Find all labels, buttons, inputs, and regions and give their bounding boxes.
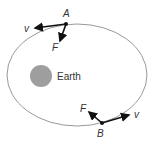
earth-icon	[30, 65, 52, 87]
point-a-dot	[64, 22, 68, 26]
force-label-a: F	[52, 42, 59, 53]
velocity-label-b: v	[134, 109, 140, 120]
earth-label: Earth	[57, 71, 81, 82]
point-b-dot	[100, 121, 104, 125]
point-b-label: B	[97, 128, 104, 139]
point-b: B v F	[80, 103, 140, 139]
force-arrow-a	[60, 24, 66, 41]
force-label-b: F	[80, 103, 87, 114]
velocity-arrow-b	[102, 115, 129, 123]
orbit-diagram: Earth A v F B v F	[0, 0, 159, 145]
velocity-label-a: v	[24, 23, 30, 34]
force-arrow-b	[89, 112, 102, 123]
point-a: A v F	[24, 8, 70, 53]
point-a-label: A	[62, 8, 70, 19]
